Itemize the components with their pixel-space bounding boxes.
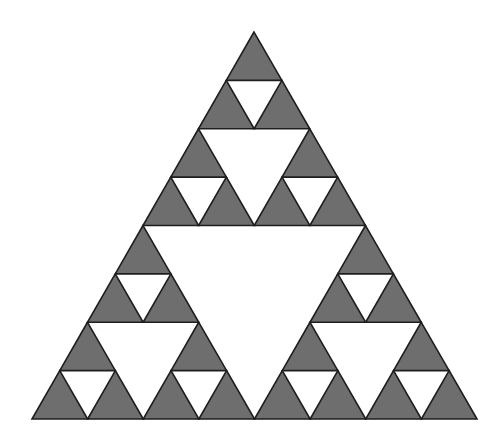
sierpinski-cell — [32, 371, 88, 419]
sierpinski-cell — [171, 129, 227, 177]
sierpinski-cell — [310, 177, 366, 225]
sierpinski-cell — [88, 274, 144, 322]
sierpinski-cell — [310, 371, 366, 419]
sierpinski-cell — [310, 274, 366, 322]
sierpinski-cell — [366, 274, 422, 322]
sierpinski-cell — [421, 371, 477, 419]
sierpinski-cell — [254, 177, 310, 225]
sierpinski-cell — [366, 371, 422, 419]
sierpinski-cell — [199, 177, 255, 225]
sierpinski-cell — [88, 371, 144, 419]
sierpinski-cell — [282, 322, 338, 370]
sierpinski-cell — [338, 226, 394, 274]
sierpinski-cell — [115, 226, 171, 274]
sierpinski-cell — [199, 371, 255, 419]
sierpinski-cell — [282, 129, 338, 177]
sierpinski-cell — [143, 274, 199, 322]
filled-triangles — [32, 32, 477, 419]
sierpinski-cell — [254, 80, 310, 128]
sierpinski-triangle-diagram — [0, 0, 503, 441]
sierpinski-cell — [394, 322, 450, 370]
sierpinski-cell — [171, 322, 227, 370]
sierpinski-cell — [143, 177, 199, 225]
sierpinski-cell — [60, 322, 116, 370]
sierpinski-cell — [143, 371, 199, 419]
sierpinski-cell — [255, 371, 311, 419]
sierpinski-cell — [199, 80, 255, 128]
sierpinski-cell — [226, 32, 282, 80]
